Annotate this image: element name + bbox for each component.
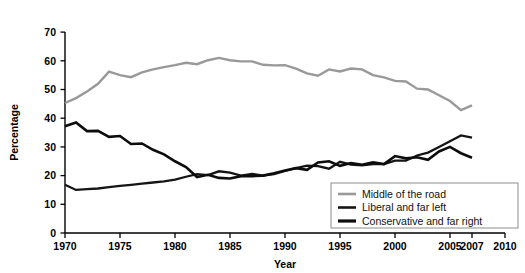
y-axis-title: Percentage [8, 104, 20, 161]
x-tick-label-2000: 2000 [383, 240, 407, 252]
data-series-group [65, 58, 472, 190]
series-line-1 [65, 135, 472, 190]
x-tick-label-1970: 1970 [53, 240, 77, 252]
y-tick-label-10: 10 [44, 198, 56, 210]
y-tick-label-50: 50 [44, 83, 56, 95]
y-tick-label-70: 70 [44, 26, 56, 38]
legend-label-0: Middle of the road [362, 188, 446, 200]
x-tick-label-1975: 1975 [108, 240, 132, 252]
y-tick-label-20: 20 [44, 169, 56, 181]
x-tick-label-1985: 1985 [218, 240, 242, 252]
y-tick-label-30: 30 [44, 141, 56, 153]
series-line-0 [65, 58, 472, 110]
x-tick-label-2005: 2005 [438, 240, 462, 252]
x-tick-label-1995: 1995 [328, 240, 352, 252]
chart-canvas: 0102030405060701970197519801985199019952… [0, 0, 525, 273]
x-tick-label-2010: 2010 [493, 240, 517, 252]
legend-label-1: Liberal and far left [362, 201, 446, 213]
x-tick-label-1980: 1980 [163, 240, 187, 252]
x-tick-label-1990: 1990 [273, 240, 297, 252]
legend-label-2: Conservative and far right [362, 215, 482, 227]
y-tick-label-40: 40 [44, 112, 56, 124]
y-tick-label-60: 60 [44, 55, 56, 67]
x-axis-title: Year [274, 258, 296, 270]
line-chart: 0102030405060701970197519801985199019952… [0, 0, 525, 273]
series-line-2 [65, 123, 472, 179]
x-tick-label-2007: 2007 [460, 240, 484, 252]
chart-legend: Middle of the roadLiberal and far leftCo… [331, 183, 518, 228]
y-tick-label-0: 0 [50, 227, 56, 239]
